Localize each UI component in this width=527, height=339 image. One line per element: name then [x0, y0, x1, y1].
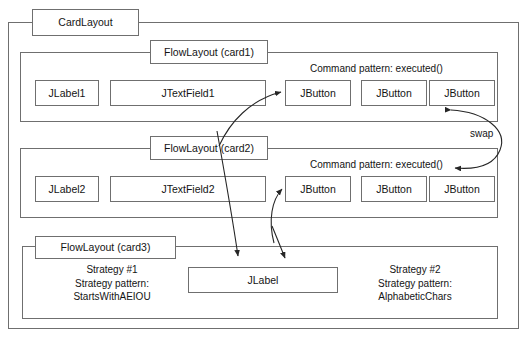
card2-command-pattern-caption: Command pattern: executed() — [310, 159, 443, 170]
card2-jbutton-3[interactable]: JButton — [429, 176, 495, 202]
card1-jbutton-3[interactable]: JButton — [429, 80, 495, 106]
card1-title-label: FlowLayout (card1) — [150, 40, 268, 64]
cardlayout-title-label: CardLayout — [32, 9, 139, 36]
card1-command-pattern-caption: Command pattern: executed() — [310, 63, 443, 74]
card3-strategy-right-block: Strategy #2 Strategy pattern: Alphabetic… — [345, 263, 485, 304]
card1-jlabel1[interactable]: JLabel1 — [35, 80, 99, 106]
strategy-right-line2: Strategy pattern: — [345, 277, 485, 291]
strategy-left-line1: Strategy #1 — [42, 263, 182, 277]
card2-jtextfield2[interactable]: JTextField2 — [110, 176, 266, 202]
diagram-canvas: CardLayout FlowLayout (card1) Command pa… — [0, 0, 527, 339]
card1-jbutton-2[interactable]: JButton — [361, 80, 427, 106]
card3-title-label: FlowLayout (card3) — [35, 236, 176, 259]
card2-jbutton-2[interactable]: JButton — [361, 176, 427, 202]
strategy-left-line2: Strategy pattern: — [42, 277, 182, 291]
card2-title-label: FlowLayout (card2) — [150, 136, 268, 160]
card2-jbutton-1[interactable]: JButton — [285, 176, 351, 202]
strategy-left-line3: StartsWithAEIOU — [42, 290, 182, 304]
card1-jbutton-1[interactable]: JButton — [285, 80, 351, 106]
strategy-right-line3: AlphabeticChars — [345, 290, 485, 304]
card3-jlabel[interactable]: JLabel — [188, 267, 338, 293]
card3-strategy-left-block: Strategy #1 Strategy pattern: StartsWith… — [42, 263, 182, 304]
swap-label: swap — [470, 128, 493, 139]
card2-jlabel2[interactable]: JLabel2 — [35, 176, 99, 202]
card1-jtextfield1[interactable]: JTextField1 — [110, 80, 266, 106]
strategy-right-line1: Strategy #2 — [345, 263, 485, 277]
